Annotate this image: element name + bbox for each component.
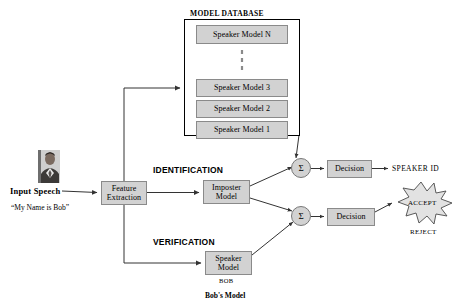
- imposter-model-line2: Model: [212, 192, 241, 201]
- speaker-model-1-box[interactable]: Speaker Model 1: [196, 121, 288, 139]
- identification-label: IDENTIFICATION: [153, 165, 223, 175]
- imposter-model-line1: Imposter: [212, 183, 241, 192]
- verification-label: VERIFICATION: [153, 237, 215, 247]
- bob-tag-label: BOB: [219, 277, 233, 284]
- input-speech-label: Input Speech: [10, 186, 60, 196]
- diagram-canvas: MODEL DATABASE Speaker Model N Speaker M…: [0, 0, 456, 308]
- speaker-model-n-box[interactable]: Speaker Model N: [196, 25, 288, 44]
- summation-node-top[interactable]: Σ: [291, 158, 311, 178]
- imposter-model-box[interactable]: Imposter Model: [203, 180, 250, 204]
- feature-extraction-box[interactable]: Feature Extraction: [101, 181, 147, 205]
- decision-box-verification[interactable]: Decision: [327, 208, 375, 226]
- speaker-model-2-box[interactable]: Speaker Model 2: [196, 100, 288, 118]
- feature-extraction-line2: Extraction: [107, 193, 141, 202]
- person-photo-icon: [32, 148, 66, 184]
- speaker-model-bob-line1: Speaker: [215, 254, 241, 263]
- summation-node-bottom[interactable]: Σ: [291, 206, 311, 226]
- speaker-model-bob-box[interactable]: Speaker Model: [205, 251, 252, 275]
- model-database-title: MODEL DATABASE: [190, 9, 264, 18]
- bobs-model-label: Bob's Model: [205, 291, 245, 300]
- speaker-model-3-box[interactable]: Speaker Model 3: [196, 79, 288, 97]
- accept-output-label: ACCEPT: [408, 199, 437, 207]
- reject-output-label: REJECT: [410, 228, 437, 236]
- speaker-model-bob-line2: Model: [215, 263, 241, 272]
- speaker-id-output-label: SPEAKER ID: [392, 164, 439, 173]
- decision-box-identification[interactable]: Decision: [327, 160, 372, 178]
- feature-extraction-line1: Feature: [107, 184, 141, 193]
- input-speech-quote: “My Name is Bob”: [11, 203, 69, 212]
